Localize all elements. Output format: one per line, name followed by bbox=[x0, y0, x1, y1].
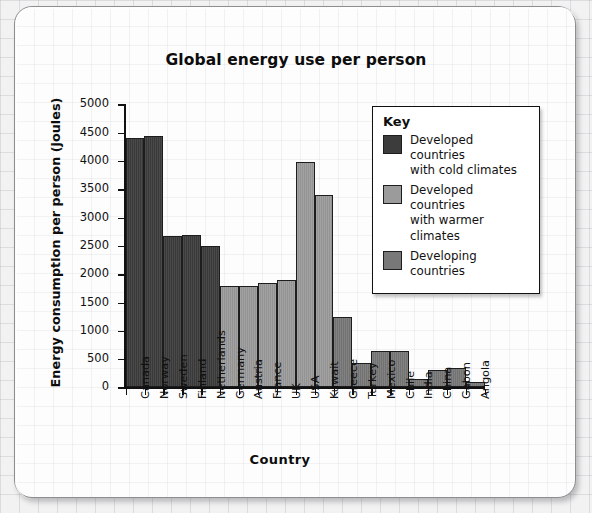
x-label: Turkey bbox=[352, 397, 371, 467]
y-tick: 500 bbox=[118, 359, 124, 360]
x-label-text: Austria bbox=[252, 359, 265, 399]
y-tick: 2000 bbox=[118, 274, 124, 275]
x-label-text: Angola bbox=[479, 360, 492, 399]
x-label: Angola bbox=[466, 397, 485, 467]
x-label-text: Turkey bbox=[366, 362, 379, 399]
x-label-text: Mexico bbox=[385, 360, 398, 399]
x-label-text: Greece bbox=[347, 359, 360, 399]
y-tick-label: 4000 bbox=[80, 153, 109, 167]
y-tick: 3500 bbox=[118, 189, 124, 190]
legend-label: Developed countrieswith cold climates bbox=[410, 133, 530, 178]
y-tick-label: 500 bbox=[87, 351, 109, 365]
x-label-text: Canada bbox=[139, 356, 152, 399]
x-label-text: France bbox=[271, 361, 284, 399]
x-label: Austria bbox=[239, 397, 258, 467]
legend-title: Key bbox=[383, 114, 530, 129]
legend-entry: Developing countries bbox=[383, 249, 530, 279]
legend-label: Developing countries bbox=[410, 249, 530, 279]
x-label: Germany bbox=[220, 397, 239, 467]
legend-entry: Developed countrieswith warmer climates bbox=[383, 183, 530, 243]
x-label-text: Sweden bbox=[177, 354, 190, 399]
x-tick bbox=[126, 389, 127, 395]
legend-entries: Developed countrieswith cold climatesDev… bbox=[383, 133, 530, 279]
y-axis-title: Energy consumption per person (joules) bbox=[48, 93, 63, 393]
y-tick: 0 bbox=[118, 387, 124, 388]
legend-swatch bbox=[383, 251, 402, 270]
chart-legend: Key Developed countrieswith cold climate… bbox=[372, 106, 540, 294]
x-label: Netherlands bbox=[201, 397, 220, 467]
x-label-text: Kuwait bbox=[328, 361, 341, 399]
x-axis-labels: CanadaNorwaySwedenFinlandNetherlandsGerm… bbox=[126, 397, 485, 467]
x-label: France bbox=[258, 397, 277, 467]
y-tick-label: 2500 bbox=[80, 238, 109, 252]
x-label: Norway bbox=[144, 397, 163, 467]
x-label-text: Finland bbox=[196, 359, 209, 399]
x-label-text: Gabon bbox=[460, 362, 473, 399]
y-tick: 2500 bbox=[118, 246, 124, 247]
x-label-text: Netherlands bbox=[215, 330, 228, 399]
x-label: Kuwait bbox=[315, 397, 334, 467]
y-tick: 1000 bbox=[118, 331, 124, 332]
y-tick-label: 5000 bbox=[80, 96, 109, 110]
y-tick: 3000 bbox=[118, 218, 124, 219]
chart-title: Global energy use per person bbox=[15, 51, 577, 69]
y-tick: 1500 bbox=[118, 303, 124, 304]
x-label: Finland bbox=[182, 397, 201, 467]
x-label: Greece bbox=[333, 397, 352, 467]
x-label-text: Chile bbox=[404, 371, 417, 399]
x-label: Sweden bbox=[163, 397, 182, 467]
y-tick-label: 1000 bbox=[80, 323, 109, 337]
bar bbox=[126, 138, 145, 387]
legend-swatch bbox=[383, 185, 402, 204]
y-tick: 5000 bbox=[118, 104, 124, 105]
x-label-text: Germany bbox=[234, 347, 247, 399]
worksheet-page: Global energy use per person Energy cons… bbox=[14, 6, 576, 498]
y-tick-label: 4500 bbox=[80, 125, 109, 139]
legend-swatch bbox=[383, 135, 402, 154]
x-label-text: USA bbox=[309, 376, 322, 399]
y-tick-label: 2000 bbox=[80, 266, 109, 280]
x-label: Canada bbox=[126, 397, 145, 467]
x-label: USA bbox=[296, 397, 315, 467]
x-label: Gabon bbox=[447, 397, 466, 467]
x-label-text: India bbox=[422, 371, 435, 399]
x-label: Chile bbox=[390, 397, 409, 467]
legend-entry: Developed countrieswith cold climates bbox=[383, 133, 530, 178]
y-tick: 4500 bbox=[118, 133, 124, 134]
x-label: UK bbox=[277, 397, 296, 467]
y-tick-label: 0 bbox=[102, 379, 109, 393]
x-label: Mexico bbox=[371, 397, 390, 467]
legend-label: Developed countrieswith warmer climates bbox=[410, 183, 530, 243]
x-label-text: Norway bbox=[158, 356, 171, 399]
bar bbox=[144, 136, 163, 388]
bar bbox=[296, 162, 315, 387]
x-label: India bbox=[409, 397, 428, 467]
y-tick: 4000 bbox=[118, 161, 124, 162]
y-tick-label: 3000 bbox=[80, 210, 109, 224]
x-label-text: China bbox=[441, 367, 454, 399]
y-tick-label: 3500 bbox=[80, 181, 109, 195]
bar bbox=[315, 195, 334, 387]
y-tick-label: 1500 bbox=[80, 295, 109, 309]
x-label: China bbox=[428, 397, 447, 467]
